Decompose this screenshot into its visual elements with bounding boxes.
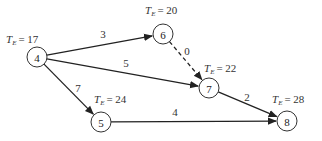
edge-5-to-8 (111, 121, 276, 122)
edge-weight-4-6: 3 (100, 28, 106, 40)
edge-weight-4-5: 7 (75, 82, 81, 94)
network-diagram: 46758 357024TE= 17TE= 20TE= 22TE= 24TE= … (0, 0, 322, 141)
node-4: 4 (27, 47, 47, 67)
earliest-time-label-5: TE= 24 (94, 93, 127, 107)
edge-weight-7-8: 2 (244, 91, 250, 103)
nodes-layer: 46758 (27, 24, 297, 132)
edge-weight-4-7: 5 (123, 57, 129, 69)
edges-layer (44, 36, 277, 122)
node-label: 4 (34, 52, 40, 64)
edge-4-to-5 (44, 64, 93, 114)
node-7: 7 (199, 78, 219, 98)
node-8: 8 (277, 111, 297, 131)
node-label: 6 (160, 29, 166, 41)
earliest-time-label-4: TE= 17 (6, 33, 39, 47)
node-label: 8 (284, 116, 290, 128)
edge-weight-6-7: 0 (184, 45, 190, 57)
node-6: 6 (153, 24, 173, 44)
node-label: 5 (98, 117, 104, 129)
earliest-time-label-6: TE= 20 (145, 4, 178, 18)
labels-layer: 357024TE= 17TE= 20TE= 22TE= 24TE= 28 (6, 4, 305, 118)
node-label: 7 (206, 83, 212, 95)
earliest-time-label-8: TE= 28 (272, 93, 305, 107)
earliest-time-label-7: TE= 22 (204, 62, 236, 76)
edge-weight-5-8: 4 (172, 106, 178, 118)
node-5: 5 (91, 112, 111, 132)
